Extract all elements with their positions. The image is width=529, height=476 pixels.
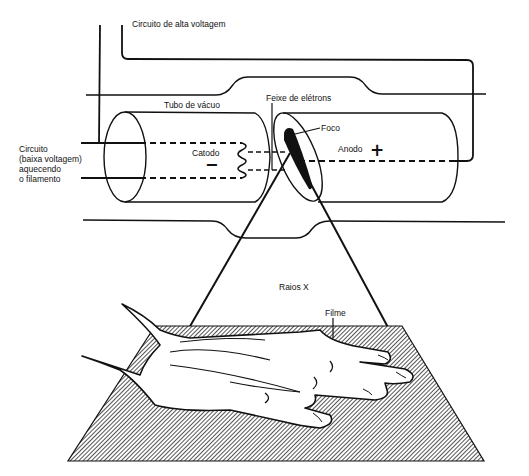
focus-pointer [291,128,320,135]
label-anode: Anodo [338,144,363,154]
cathode-cylinder [104,112,270,202]
label-low-voltage-circuit-3: aquecendo [19,164,61,174]
label-focus: Foco [321,123,340,133]
anode-plus-icon: + [370,140,384,160]
label-low-voltage-circuit-1: Circuito [19,144,48,154]
label-low-voltage-circuit-4: o filamento [19,174,61,184]
label-high-voltage-circuit: Circuito de alta voltagem [132,19,226,29]
label-vacuum-tube: Tubo de vácuo [164,100,220,110]
label-electron-beam: Feixe de elétrons [266,93,331,103]
label-low-voltage-circuit-2: (baixa voltagem) [19,154,82,164]
glass-envelope-bottom [83,220,505,238]
label-film: Filme [325,308,346,318]
xray-diagram-canvas [0,0,529,476]
label-xrays: Raios X [279,282,309,292]
cathode-minus-icon: − [205,155,218,174]
